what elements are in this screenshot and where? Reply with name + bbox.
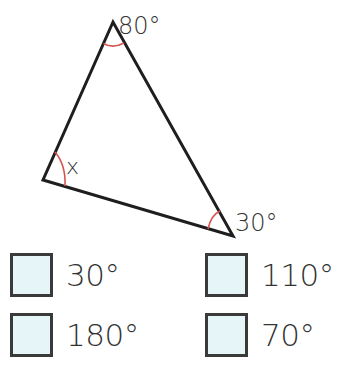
option-label: 70° [261,317,314,353]
angle-arc-top [104,43,125,46]
option-label: 30° [66,257,119,293]
angle-label-right: 30° [235,211,278,235]
option-30[interactable]: 30° [10,253,119,297]
option-label: 180° [66,317,139,353]
angle-arc-left [55,152,65,186]
option-110[interactable]: 110° [205,253,334,297]
triangle [43,22,233,236]
checkbox-180[interactable] [10,313,53,357]
angle-label-left: x [66,156,79,178]
option-label: 110° [261,257,334,293]
checkbox-70[interactable] [205,313,248,357]
checkbox-110[interactable] [205,253,248,297]
triangle-diagram [0,0,350,250]
option-70[interactable]: 70° [205,313,314,357]
angle-label-top: 80° [118,14,161,38]
option-180[interactable]: 180° [10,313,139,357]
checkbox-30[interactable] [10,253,53,297]
angle-arc-right [208,211,220,229]
